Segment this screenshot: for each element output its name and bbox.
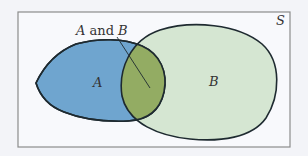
intersection-label: A and B (75, 23, 128, 38)
set-b-label: B (208, 74, 219, 89)
venn-diagram: A and B A B S (0, 0, 308, 156)
universe-label: S (276, 13, 285, 28)
set-a-label: A (92, 75, 102, 90)
